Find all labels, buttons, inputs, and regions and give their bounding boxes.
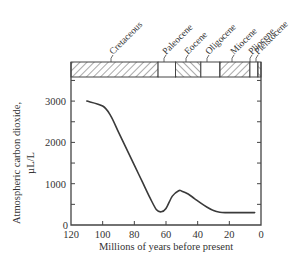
y-tick-label: 3000 (45, 96, 66, 107)
epoch-segment-cretaceous (71, 62, 158, 77)
y-tick-label: 1000 (45, 179, 66, 190)
y-tick-label: 2000 (45, 137, 66, 148)
epoch-band (71, 62, 261, 77)
epoch-segment-paleocene (158, 62, 175, 77)
epoch-segment-miocene (220, 62, 250, 77)
y-axis-label: Atmospheric carbon dioxide, (11, 102, 22, 224)
x-axis-label: Millions of years before present (99, 241, 233, 252)
axes (71, 62, 261, 225)
epoch-segment-eocene (176, 62, 201, 77)
epoch-segment-oligocene (201, 62, 220, 77)
x-tick-label: 0 (258, 229, 263, 240)
epoch-label-cretaceous: Cretaceous (107, 19, 144, 56)
y-axis-units: µL/L (25, 152, 36, 174)
epoch-segment-pliocene (250, 62, 258, 77)
x-tick-label: 40 (192, 229, 203, 240)
x-tick-label: 60 (161, 229, 172, 240)
co2-curve (87, 101, 255, 213)
epoch-labels: CretaceousPaleoceneEoceneOligoceneMiocen… (107, 19, 290, 62)
co2-chart: CretaceousPaleoceneEoceneOligoceneMiocen… (0, 0, 306, 268)
y-tick-label: 0 (63, 220, 68, 231)
ticks: 1201008060402000100020003000 (45, 80, 264, 240)
axis-frame (71, 62, 261, 225)
x-tick-label: 20 (224, 229, 235, 240)
x-tick-label: 80 (129, 229, 140, 240)
x-tick-label: 100 (95, 229, 111, 240)
